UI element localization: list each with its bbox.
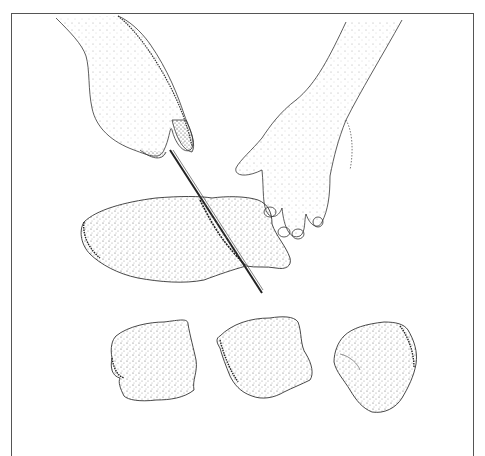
fillet-icon [81, 197, 290, 283]
portion-3-icon [334, 322, 417, 412]
portion-2-icon [217, 317, 312, 398]
fish-slicing-illustration [0, 0, 485, 456]
portion-1-icon [111, 320, 196, 401]
left-hand-icon [56, 16, 194, 158]
